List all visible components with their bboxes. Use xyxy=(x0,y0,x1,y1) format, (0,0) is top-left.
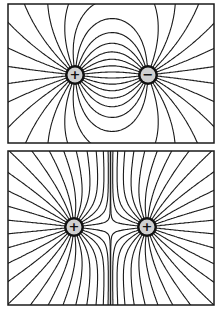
field-line xyxy=(154,188,219,223)
field-line xyxy=(46,145,73,219)
field-line xyxy=(156,66,219,74)
field-line xyxy=(2,45,67,72)
field-line xyxy=(156,78,219,105)
field-line xyxy=(3,188,68,223)
field-line xyxy=(117,231,140,310)
field-line xyxy=(22,0,69,69)
field-line xyxy=(83,76,142,78)
field-line xyxy=(65,0,73,67)
field-line xyxy=(155,18,219,71)
field-line xyxy=(151,234,219,311)
field-line xyxy=(151,83,159,149)
field-line xyxy=(148,235,176,311)
field-line xyxy=(2,230,66,250)
field-line xyxy=(151,0,159,67)
field-line xyxy=(155,79,219,132)
field-line xyxy=(65,83,73,149)
positive-charge-icon xyxy=(67,220,82,235)
field-line xyxy=(3,79,69,133)
like-charges-field-lines xyxy=(2,145,219,311)
field-line xyxy=(123,233,141,310)
field-line xyxy=(150,145,194,219)
field-line xyxy=(23,81,69,149)
field-line xyxy=(148,145,175,219)
field-line xyxy=(117,146,140,223)
field-line xyxy=(81,231,104,310)
field-line xyxy=(155,204,219,224)
field-line xyxy=(3,231,68,265)
field-line xyxy=(3,17,69,71)
field-line xyxy=(80,233,98,310)
field-line xyxy=(123,145,141,221)
positive-charge-icon xyxy=(140,220,155,235)
field-line xyxy=(81,146,104,223)
positive-charge-icon xyxy=(68,68,83,83)
field-line xyxy=(156,76,219,84)
opposite-charges-field-lines xyxy=(2,0,219,149)
field-line xyxy=(80,145,98,221)
field-line xyxy=(154,0,201,69)
field-line xyxy=(3,76,67,84)
field-line xyxy=(154,231,219,266)
negative-charge-icon xyxy=(141,68,156,83)
opposite-charges-frame xyxy=(8,4,214,143)
field-line xyxy=(83,72,142,74)
field-line xyxy=(2,78,67,105)
field-lines-diagram xyxy=(0,0,219,314)
field-line xyxy=(45,235,73,311)
field-line xyxy=(3,66,67,74)
field-line xyxy=(154,81,200,149)
field-line xyxy=(73,0,109,67)
field-line xyxy=(156,46,219,73)
field-line xyxy=(2,205,66,225)
field-line xyxy=(155,230,219,250)
field-line xyxy=(28,145,72,219)
